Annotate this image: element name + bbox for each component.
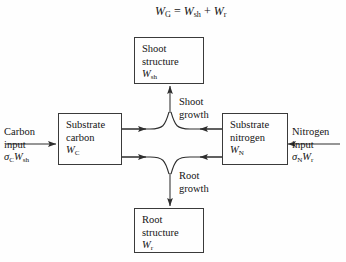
box-root-structure-symbol: Wr <box>142 239 203 252</box>
label-shoot-growth-line1: Shoot <box>179 96 209 109</box>
arrow-carbon-to-root <box>122 157 169 174</box>
box-substrate-carbon-symbol: WC <box>66 144 121 157</box>
box-shoot-structure: Shoot structure Wsh <box>134 37 204 84</box>
label-root-growth: Root growth <box>179 170 209 195</box>
label-root-growth-line2: growth <box>179 183 209 196</box>
label-carbon-input-symbol: σCWsh <box>4 151 35 164</box>
label-nitrogen-input-symbol: σNWr <box>292 151 329 164</box>
box-root-structure-line2: structure <box>142 227 203 240</box>
box-shoot-structure-symbol: Wsh <box>142 68 203 81</box>
box-root-structure: Root structure Wr <box>134 208 204 253</box>
box-root-structure-line1: Root <box>142 214 203 227</box>
box-substrate-carbon-line1: Substrate <box>66 119 121 132</box>
label-carbon-input-line1: Carbon <box>4 126 35 139</box>
label-shoot-growth: Shoot growth <box>179 96 209 121</box>
label-shoot-growth-line2: growth <box>179 109 209 122</box>
box-substrate-carbon: Substrate carbon WC <box>58 113 122 165</box>
box-shoot-structure-line1: Shoot <box>142 43 203 56</box>
label-nitrogen-input-line1: Nitrogen <box>292 126 329 139</box>
label-nitrogen-input-line2: input <box>292 139 329 152</box>
box-substrate-nitrogen-symbol: WN <box>230 144 287 157</box>
box-shoot-structure-line2: structure <box>142 56 203 69</box>
box-substrate-nitrogen-line1: Substrate <box>230 119 287 132</box>
arrow-carbon-to-shoot <box>122 112 169 129</box>
label-carbon-input: Carbon input σCWsh <box>4 126 35 164</box>
figure-canvas: WG = Wsh + Wr <box>0 0 346 262</box>
box-substrate-carbon-line2: carbon <box>66 132 121 145</box>
label-root-growth-line1: Root <box>179 170 209 183</box>
label-nitrogen-input: Nitrogen input σNWr <box>292 126 329 164</box>
box-substrate-nitrogen: Substrate nitrogen WN <box>222 113 288 165</box>
box-substrate-nitrogen-line2: nitrogen <box>230 132 287 145</box>
label-carbon-input-line2: input <box>4 139 35 152</box>
